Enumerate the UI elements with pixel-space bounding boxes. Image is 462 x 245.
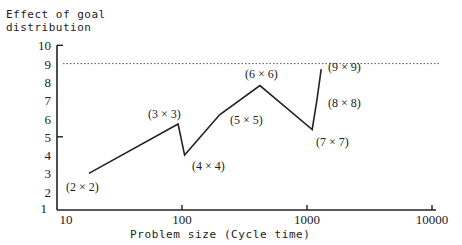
point-annotation: (9 × 9) <box>328 60 361 74</box>
y-tick-label: 4 <box>45 148 52 163</box>
y-tick-label: 9 <box>45 57 52 72</box>
data-line <box>89 69 321 173</box>
point-annotation: (2 × 2) <box>66 180 99 194</box>
y-tick-label: 10 <box>38 38 51 53</box>
point-annotation: (5 × 5) <box>230 113 263 127</box>
point-annotation: (3 × 3) <box>148 107 181 121</box>
y-tick-label: 6 <box>45 112 52 127</box>
x-tick-label: 100 <box>172 212 192 227</box>
x-tick-label: 10000 <box>416 212 449 227</box>
y-tick-label: 5 <box>45 130 52 145</box>
point-annotation: (7 × 7) <box>316 135 349 149</box>
y-tick-label: 7 <box>45 93 52 108</box>
point-annotation: (8 × 8) <box>328 96 361 110</box>
point-annotation: (4 × 4) <box>192 159 225 173</box>
line-chart: 1234567891010100100010000(2 × 2)(3 × 3)(… <box>0 0 462 245</box>
point-annotation: (6 × 6) <box>245 67 278 81</box>
y-tick-label: 2 <box>45 185 52 200</box>
y-tick-label: 1 <box>41 201 48 216</box>
x-axis-label: Problem size (Cycle time) <box>130 228 311 241</box>
x-tick-label: 10 <box>60 212 73 227</box>
y-tick-label: 3 <box>45 166 52 181</box>
x-tick-label: 1000 <box>294 212 320 227</box>
y-tick-label: 8 <box>45 75 52 90</box>
